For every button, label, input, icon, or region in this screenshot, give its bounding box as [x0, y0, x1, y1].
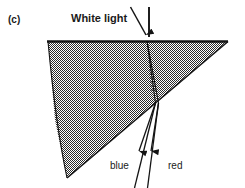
blue-ray-label: blue — [110, 160, 129, 171]
prism-dispersion-figure: (c) White light blue red — [0, 0, 245, 188]
incident-white-light-ray — [131, 7, 147, 35]
prism-fill — [48, 41, 228, 178]
red-ray-label: red — [168, 160, 182, 171]
white-light-label: White light — [71, 12, 127, 24]
panel-letter-label: (c) — [8, 14, 20, 25]
prism-body — [47, 41, 228, 178]
